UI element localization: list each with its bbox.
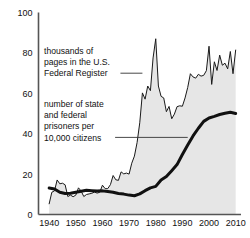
x-axis-tick-label: 1940 [39,218,59,228]
federal-register-vs-prisoners-chart: 0204060801001940195019601970198019902000… [0,0,250,238]
x-axis-tick-label: 2000 [199,218,219,228]
x-axis-tick-label: 1980 [146,218,166,228]
x-axis-tick-label: 1990 [172,218,192,228]
x-axis-tick-label: 1960 [92,218,112,228]
y-axis-tick-label: 80 [22,48,32,58]
y-axis-tick-label: 0 [27,210,32,220]
x-axis-tick-label: 1950 [66,218,86,228]
federal-register-label-line: Federal Register [44,68,108,78]
federal-register-label-line: pages in the U.S. [44,57,110,67]
x-axis-tick-label: 1970 [119,218,139,228]
y-axis-tick-label: 100 [17,8,32,18]
y-axis-tick-label: 40 [22,129,32,139]
y-axis-tick-label: 60 [22,89,32,99]
prisoners-label-line: prisoners per [44,121,94,131]
prisoners-label-line: and federal [44,110,87,120]
y-axis-tick-label: 20 [22,170,32,180]
x-axis-tick-label: 2010 [226,218,246,228]
federal-register-label-line: thousands of [44,46,94,56]
prisoners-label-line: number of state [44,99,104,109]
prisoners-label-line: 10,000 citizens [44,133,101,143]
chart-container: 0204060801001940195019601970198019902000… [0,0,250,238]
